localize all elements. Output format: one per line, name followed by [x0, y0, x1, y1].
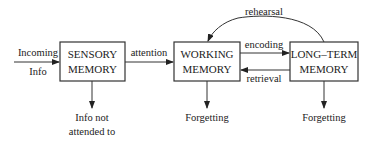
- incoming-label-line1: Incoming: [18, 47, 59, 58]
- sensory-memory-line1: SENSORY: [68, 48, 118, 60]
- not-attended-label-line2: attended to: [69, 126, 115, 137]
- sensory-memory-line2: MEMORY: [68, 63, 117, 75]
- retrieval-label: retrieval: [247, 73, 282, 84]
- long-term-memory-box: LONG–TERM MEMORY: [290, 42, 358, 81]
- memory-model-diagram: Incoming Info SENSORY MEMORY attention W…: [0, 0, 373, 141]
- attention-label: attention: [131, 47, 168, 58]
- forgetting-longterm-label: Forgetting: [302, 112, 346, 123]
- long-term-memory-line1: LONG–TERM: [291, 48, 358, 60]
- sensory-memory-box: SENSORY MEMORY: [60, 42, 125, 81]
- forgetting-working-label: Forgetting: [185, 112, 229, 123]
- not-attended-label-line1: Info not: [75, 112, 109, 123]
- incoming-label-line2: Info: [29, 66, 47, 77]
- encoding-label: encoding: [245, 39, 284, 50]
- working-memory-line2: MEMORY: [183, 63, 232, 75]
- working-memory-line1: WORKING: [180, 48, 233, 60]
- rehearsal-label: rehearsal: [245, 6, 283, 17]
- long-term-memory-line2: MEMORY: [300, 63, 349, 75]
- working-memory-box: WORKING MEMORY: [174, 42, 240, 81]
